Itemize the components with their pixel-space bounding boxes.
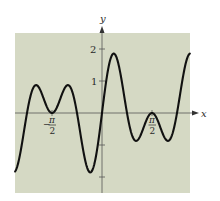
x-axis-arrow-icon: [192, 111, 199, 116]
function-graph: x y 2 1 − π 2 π 2: [0, 0, 220, 201]
y-tick-label-1: 1: [91, 76, 97, 87]
denominator: 2: [150, 126, 156, 136]
y-axis-label: y: [99, 13, 106, 24]
x-tick-label-pi-half: π 2: [148, 115, 156, 136]
pi-numerator: π: [48, 115, 56, 125]
x-axis-label: x: [201, 108, 207, 119]
y-axis-arrow-icon: [100, 26, 105, 33]
y-tick-label-2: 2: [90, 44, 96, 55]
denominator: 2: [50, 126, 56, 136]
